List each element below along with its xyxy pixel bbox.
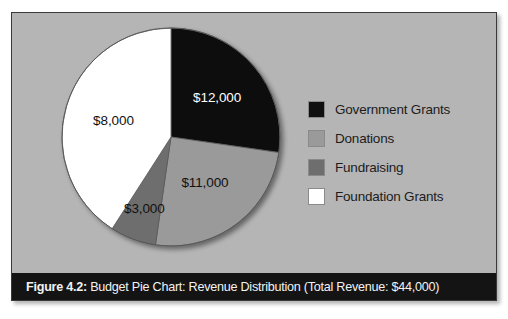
figure-number: Figure 4.2:	[26, 280, 87, 294]
legend-item-foundation-grants[interactable]: Foundation Grants	[308, 184, 488, 209]
figure-caption-body: Budget Pie Chart: Revenue Distribution (…	[87, 280, 439, 294]
legend-item-label: Government Grants	[335, 102, 450, 117]
legend-item-fundraising[interactable]: Fundraising	[308, 155, 488, 180]
legend-swatch-icon	[308, 130, 325, 147]
legend-item-government-grants[interactable]: Government Grants	[308, 97, 488, 122]
legend-swatch-icon	[308, 188, 325, 205]
figure-caption-text: Figure 4.2: Budget Pie Chart: Revenue Di…	[12, 280, 439, 294]
slice-label-government-grants: $12,000	[193, 90, 241, 105]
figure-caption-bar: Figure 4.2: Budget Pie Chart: Revenue Di…	[12, 273, 496, 300]
slice-label-donations: $11,000	[181, 175, 228, 190]
legend-item-label: Foundation Grants	[335, 189, 443, 204]
chart-legend: Government GrantsDonationsFundraisingFou…	[308, 97, 488, 213]
legend-item-donations[interactable]: Donations	[308, 126, 488, 151]
legend-swatch-icon	[308, 101, 325, 118]
chart-plot-area: $12,000 $11,000 $3,000 $8,000 Government…	[12, 13, 496, 273]
slice-label-fundraising: $3,000	[124, 201, 165, 216]
slice-label-foundation-grants: $8,000	[93, 113, 134, 128]
figure-container: $12,000 $11,000 $3,000 $8,000 Government…	[11, 12, 497, 301]
legend-item-label: Fundraising	[335, 160, 403, 175]
legend-item-label: Donations	[335, 131, 394, 146]
legend-swatch-icon	[308, 159, 325, 176]
pie-slice-donations[interactable]	[155, 137, 278, 246]
